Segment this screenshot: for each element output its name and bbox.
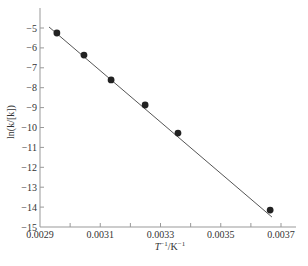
- y-tick-label: −11: [22, 142, 37, 153]
- x-axis-label-sup2: −1: [178, 240, 186, 248]
- x-axis-label: T−1/K−1: [155, 240, 186, 252]
- y-axis-label: ln(k/[k]): [5, 105, 17, 139]
- y-tick-label: −8: [26, 82, 37, 93]
- x-axis-ticks: 0.00290.00310.00330.00350.0037: [26, 223, 295, 240]
- data-point: [108, 77, 115, 84]
- y-axis-ticks: −5−6−7−8−9−10−11−12−13−14−15: [21, 23, 44, 233]
- x-tick-label: 0.0029: [26, 229, 54, 240]
- y-tick-label: −5: [26, 23, 37, 34]
- y-tick-label: −10: [21, 122, 37, 133]
- chart: −5−6−7−8−9−10−11−12−13−14−15 0.00290.003…: [0, 0, 308, 266]
- data-points: [53, 30, 273, 214]
- data-point: [53, 30, 60, 37]
- y-tick-label: −13: [21, 182, 37, 193]
- x-tick-label: 0.0035: [207, 229, 235, 240]
- data-point: [175, 130, 182, 137]
- axes: [40, 8, 296, 227]
- y-tick-label: −6: [26, 42, 37, 53]
- x-tick-label: 0.0033: [147, 229, 175, 240]
- x-tick-label: 0.0031: [87, 229, 115, 240]
- y-tick-label: −14: [21, 202, 37, 213]
- y-tick-label: −9: [26, 102, 37, 113]
- y-tick-label: −12: [21, 162, 37, 173]
- y-tick-label: −7: [26, 62, 37, 73]
- x-tick-label: 0.0037: [267, 229, 295, 240]
- data-point: [267, 207, 274, 214]
- data-point: [81, 52, 88, 59]
- data-point: [142, 102, 149, 109]
